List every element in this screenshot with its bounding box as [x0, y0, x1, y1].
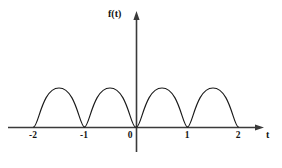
- x-tick-label-zero: 0: [125, 131, 135, 141]
- y-axis-label: f(t): [108, 9, 121, 19]
- arch-minus-1-to-0: [85, 88, 136, 127]
- x-tick-label-two: 2: [233, 131, 243, 141]
- x-axis-arrowhead: [255, 124, 264, 130]
- arch-0-to-1: [137, 88, 188, 127]
- plot-canvas: [0, 0, 282, 168]
- arch-minus-2-to-minus-1: [34, 88, 85, 127]
- x-tick-label-minus-1: -1: [76, 131, 92, 141]
- x-tick-label-minus-2: -2: [25, 131, 41, 141]
- y-axis-arrowhead: [133, 11, 139, 20]
- x-axis-label: t: [266, 130, 269, 140]
- x-tick-label-one: 1: [182, 131, 192, 141]
- plot-figure: f(t) t -2 -1 0 1 2: [0, 0, 282, 168]
- arch-1-to-2: [188, 88, 239, 127]
